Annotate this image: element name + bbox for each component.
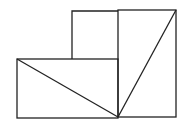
left-diagonal	[17, 59, 118, 117]
geometry-diagram	[0, 0, 189, 131]
right-diagonal	[118, 10, 176, 117]
upper-square	[72, 11, 118, 59]
